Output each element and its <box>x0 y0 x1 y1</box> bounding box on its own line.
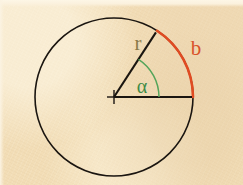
angle-label: α <box>137 75 148 97</box>
center-cross-marker <box>107 90 121 104</box>
diagram-canvas: r b α <box>0 0 243 185</box>
radius-label: r <box>135 31 142 55</box>
geometry-figure: r b α <box>0 0 243 185</box>
arc-length-label: b <box>191 36 202 60</box>
arc-length-b <box>157 31 193 97</box>
